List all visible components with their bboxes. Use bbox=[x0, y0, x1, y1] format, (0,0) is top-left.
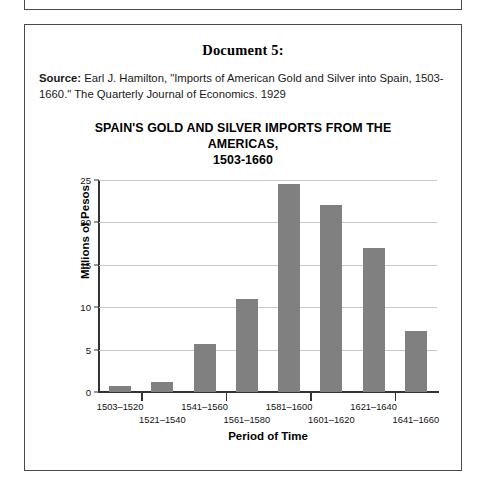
chart-title-line-2: 1503-1660 bbox=[213, 153, 273, 167]
bar-1601–1620 bbox=[320, 205, 342, 392]
bar-slot bbox=[395, 180, 437, 392]
chart-title-line-1: SPAIN'S GOLD AND SILVER IMPORTS FROM THE… bbox=[95, 121, 392, 151]
bar-slot bbox=[226, 180, 268, 392]
bar-slot bbox=[310, 180, 352, 392]
y-axis-tick-label: 20 bbox=[80, 217, 91, 228]
bar-1621–1640 bbox=[363, 248, 385, 392]
y-axis-tick-label: 0 bbox=[86, 387, 91, 398]
x-axis-title: Period of Time bbox=[99, 430, 437, 442]
x-axis-ticks bbox=[99, 392, 437, 401]
document-heading: Document 5: bbox=[39, 42, 447, 59]
x-axis-label: 1541–1560 bbox=[181, 402, 228, 412]
x-axis-label: 1561–1580 bbox=[224, 415, 271, 425]
bar-slot bbox=[353, 180, 395, 392]
y-axis-tick-label: 15 bbox=[80, 259, 91, 270]
previous-document-box-partial bbox=[24, 0, 462, 10]
x-axis-label: 1581–1600 bbox=[266, 402, 313, 412]
x-axis-label: 1601–1620 bbox=[308, 415, 355, 425]
bar-slot bbox=[141, 180, 183, 392]
x-axis-tick-mark bbox=[395, 392, 396, 401]
bar-1541–1560 bbox=[194, 344, 216, 392]
x-axis-tick-mark bbox=[310, 392, 311, 401]
bar-1561–1580 bbox=[236, 299, 258, 392]
source-citation: Source: Earl J. Hamilton, "Imports of Am… bbox=[39, 71, 447, 102]
bar-1521–1540 bbox=[151, 382, 173, 392]
x-axis-label: 1521–1540 bbox=[139, 415, 186, 425]
x-axis-label: 1503–1520 bbox=[97, 402, 144, 412]
x-axis-labels-row-2: 1521–15401561–15801601–16201641–1660 bbox=[99, 415, 437, 428]
bar-1581–1600 bbox=[278, 184, 300, 392]
x-axis-tick-mark bbox=[141, 392, 142, 401]
x-axis-label: 1641–1660 bbox=[393, 415, 440, 425]
bar-series bbox=[99, 180, 437, 392]
x-axis-tick-mark bbox=[226, 392, 227, 401]
source-label: Source: bbox=[39, 72, 81, 84]
y-axis-tick-label: 10 bbox=[80, 302, 91, 313]
x-axis-labels-row-1: 1503–15201541–15601581–16001621–1640 bbox=[99, 402, 437, 415]
source-text: Earl J. Hamilton, "Imports of American G… bbox=[39, 72, 444, 100]
bar-chart: Millions of Pesos 0510152025 1503–152015… bbox=[39, 174, 449, 442]
document-box: Document 5: Source: Earl J. Hamilton, "I… bbox=[24, 24, 462, 471]
plot-area: 0510152025 bbox=[99, 180, 437, 392]
x-axis-label: 1621–1640 bbox=[350, 402, 397, 412]
y-axis-title: Millions of Pesos bbox=[79, 172, 91, 292]
bar-slot bbox=[268, 180, 310, 392]
y-axis-tick-label: 5 bbox=[86, 344, 91, 355]
y-axis-tick-label: 25 bbox=[80, 175, 91, 186]
bar-slot bbox=[184, 180, 226, 392]
bar-1641–1660 bbox=[405, 331, 427, 392]
chart-title: SPAIN'S GOLD AND SILVER IMPORTS FROM THE… bbox=[65, 120, 421, 168]
bar-slot bbox=[99, 180, 141, 392]
